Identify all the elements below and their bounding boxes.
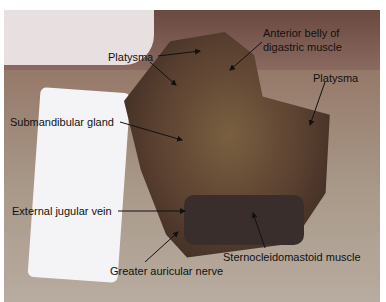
label-greater-auricular-nerve: Greater auricular nerve bbox=[110, 265, 223, 277]
label-platysma-left: Platysma bbox=[108, 51, 153, 63]
label-anterior-belly-digastric-2: digastric muscle bbox=[263, 41, 342, 53]
label-anterior-belly-digastric-1: Anterior belly of bbox=[263, 27, 339, 39]
label-external-jugular-vein: External jugular vein bbox=[12, 205, 112, 217]
label-sternocleidomastoid: Sternocleidomastoid muscle bbox=[223, 251, 361, 263]
label-platysma-right: Platysma bbox=[313, 72, 358, 84]
label-submandibular-gland: Submandibular gland bbox=[10, 116, 114, 128]
